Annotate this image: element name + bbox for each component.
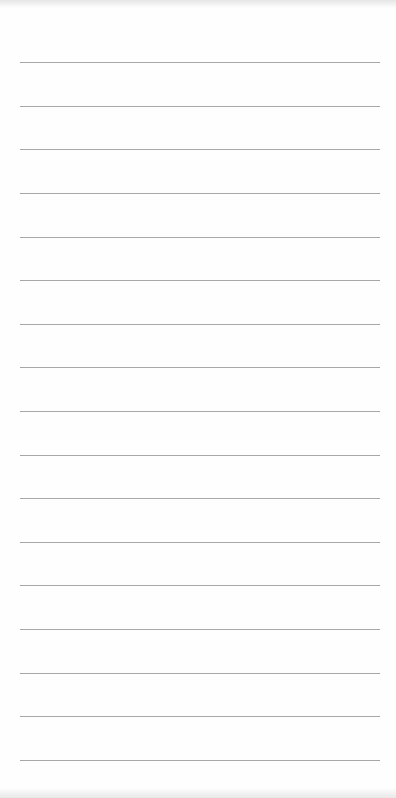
ruled-line (20, 367, 380, 368)
paper-top-edge (0, 0, 396, 8)
ruled-line (20, 760, 380, 761)
ruled-line (20, 673, 380, 674)
ruled-line (20, 106, 380, 107)
ruled-line (20, 149, 380, 150)
ruled-line (20, 411, 380, 412)
paper-bottom-edge (0, 788, 396, 798)
ruled-line (20, 629, 380, 630)
ruled-line (20, 542, 380, 543)
ruled-line (20, 498, 380, 499)
ruled-line (20, 324, 380, 325)
ruled-line (20, 455, 380, 456)
ruled-line (20, 280, 380, 281)
ruled-line (20, 193, 380, 194)
ruled-line (20, 716, 380, 717)
ruled-line (20, 62, 380, 63)
ruled-line (20, 237, 380, 238)
ruled-line (20, 585, 380, 586)
